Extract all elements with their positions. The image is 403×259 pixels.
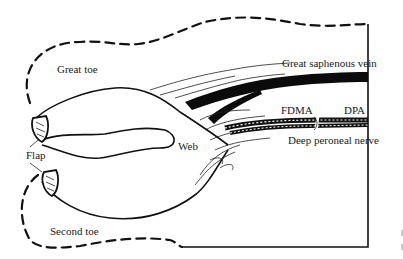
flap-pointer-upper	[30, 140, 38, 147]
flap-end-lower	[42, 170, 58, 196]
flap-end-upper	[32, 116, 48, 142]
label-great-saphenous-vein: Great saphenous vein	[282, 57, 377, 69]
label-flap: Flap	[26, 149, 46, 161]
great-saphenous-vein	[185, 72, 368, 110]
web-cleft	[42, 128, 174, 158]
label-fdma: FDMA	[281, 104, 313, 116]
label-second-toe: Second toe	[50, 225, 99, 237]
label-great-toe: Great toe	[57, 63, 98, 75]
flap-pointer-lower	[30, 163, 42, 172]
label-dpa: DPA	[344, 104, 365, 116]
flap-outline-upper	[36, 88, 228, 145]
deep-peroneal-nerve	[230, 125, 368, 133]
anatomy-diagram: Great toe Second toe Flap Web Great saph…	[0, 0, 403, 259]
flap-outline-lower	[42, 150, 228, 219]
label-web: Web	[178, 140, 198, 152]
label-deep-peroneal-nerve: Deep peroneal nerve	[288, 134, 379, 146]
